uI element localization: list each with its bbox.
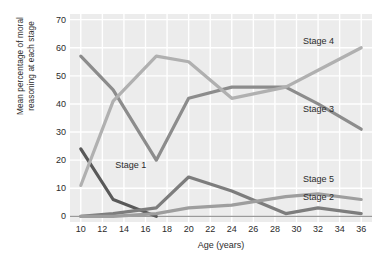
series-label-stage-5: Stage 5 [303, 174, 334, 184]
y-tick-label: 10 [42, 183, 66, 193]
y-tick-label: 60 [42, 43, 66, 53]
plot-area: Stage 1Stage 2Stage 3Stage 4Stage 5 [70, 14, 372, 222]
x-tick-label: 36 [348, 224, 374, 234]
y-tick-label: 70 [42, 15, 66, 25]
series-label-stage-2: Stage 2 [303, 192, 334, 202]
y-tick-label: 40 [42, 99, 66, 109]
moral-reasoning-line-chart: Mean percentage of moral reasoning at ea… [0, 0, 380, 262]
y-tick-label: 50 [42, 71, 66, 81]
y-axis-tick-labels: 010203040506070 [40, 14, 66, 222]
y-tick-label: 30 [42, 127, 66, 137]
x-axis-title: Age (years) [70, 240, 372, 250]
y-axis-title: Mean percentage of moral reasoning at ea… [15, 0, 37, 154]
y-tick-label: 20 [42, 155, 66, 165]
y-tick-label: 0 [42, 211, 66, 221]
series-label-stage-1: Stage 1 [115, 160, 146, 170]
x-axis-tick-labels: 1012141618202224262830323436 [70, 224, 372, 238]
series-label-stage-4: Stage 4 [303, 36, 334, 46]
series-label-stage-3: Stage 3 [303, 104, 334, 114]
